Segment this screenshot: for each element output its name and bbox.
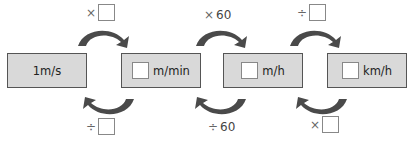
backward-op-1: ÷ (86, 118, 115, 135)
op-value: 60 (216, 8, 231, 22)
answer-blank[interactable] (241, 62, 258, 79)
divide-sign: ÷ (208, 120, 218, 134)
forward-op-2: × 60 (204, 8, 231, 22)
answer-blank[interactable] (98, 4, 115, 21)
multiply-sign: × (86, 6, 96, 20)
unit-box-kmph: km/h (327, 53, 407, 88)
divide-sign: ÷ (86, 120, 96, 134)
backward-arrow-2 (192, 97, 248, 119)
op-value: 60 (220, 120, 235, 134)
answer-blank[interactable] (132, 62, 149, 79)
answer-blank[interactable] (309, 4, 326, 21)
backward-arrow-1 (80, 97, 136, 119)
unit-box-mph: m/h (223, 53, 303, 88)
answer-blank[interactable] (322, 116, 339, 133)
multiply-sign: × (310, 118, 320, 132)
unit-label: km/h (363, 64, 392, 78)
divide-sign: ÷ (297, 6, 307, 20)
forward-arrow-1 (76, 26, 132, 48)
backward-op-2: ÷ 60 (208, 120, 235, 134)
unit-box-mpmin: m/min (121, 53, 201, 88)
backward-op-3: × (310, 116, 339, 133)
unit-label: m/h (262, 64, 284, 78)
answer-blank[interactable] (342, 62, 359, 79)
multiply-sign: × (204, 8, 214, 22)
unit-box-mps: 1m/s (7, 53, 87, 88)
answer-blank[interactable] (98, 118, 115, 135)
forward-op-3: ÷ (297, 4, 326, 21)
unit-label: 1m/s (33, 64, 61, 78)
forward-op-1: × (86, 4, 115, 21)
forward-arrow-2 (194, 26, 250, 48)
unit-label: m/min (153, 64, 190, 78)
forward-arrow-3 (288, 26, 344, 48)
